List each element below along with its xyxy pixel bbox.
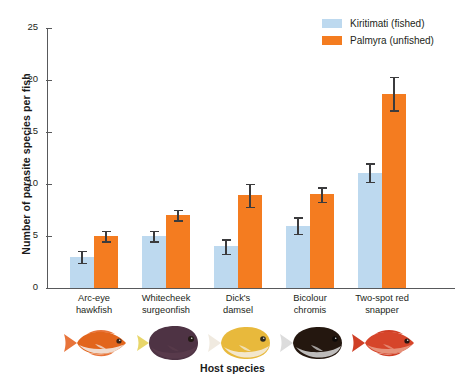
whitecheek-surgeonfish-illustration [131,322,201,364]
error-bar [153,231,154,241]
dicks-damsel-illustration [203,322,273,364]
error-bar [177,210,178,220]
y-tick-mark [46,236,52,237]
y-axis-line [47,28,48,288]
y-tick-label: 10 [27,177,38,188]
category-label-line: snapper [339,305,425,317]
two-spot-red-snapper-illustration [347,322,417,364]
error-bar-cap-upper [246,184,255,185]
bar-kiritimati [358,173,382,288]
error-bar-cap-upper [294,217,303,218]
bar-palmyra [94,236,118,288]
plot-area: 0510152025 [47,28,455,288]
error-bar-cap-upper [222,239,231,240]
y-tick-mark [46,184,52,185]
y-tick-mark [46,288,52,289]
error-bar-cap-upper [390,77,399,78]
error-bar-cap-upper [366,163,375,164]
error-bar [105,231,106,241]
category-label-line: Two-spot red [339,293,425,305]
error-bar-cap-lower [222,254,231,255]
legend-swatch-kiritimati [322,19,342,28]
x-axis-title: Host species [0,362,465,374]
error-bar-cap-upper [150,231,159,232]
error-bar-cap-lower [102,241,111,242]
arc-eye-hawkfish-illustration [59,322,129,364]
error-bar [321,187,322,202]
y-tick-mark [46,80,52,81]
y-tick-mark [46,28,52,29]
error-bar-cap-lower [246,207,255,208]
y-tick-label: 25 [27,21,38,32]
error-bar [369,163,370,182]
x-axis-line [47,288,455,289]
error-bar [225,239,226,254]
y-tick-mark [46,132,52,133]
y-tick-label: 15 [27,125,38,136]
bar-palmyra [382,94,406,288]
bar-palmyra [310,194,334,288]
error-bar-cap-upper [102,231,111,232]
bar-palmyra [166,215,190,288]
error-bar-cap-lower [294,234,303,235]
error-bar [249,184,250,207]
category-label-5: Two-spot redsnapper [339,293,425,316]
error-bar-cap-lower [78,263,87,264]
error-bar-cap-lower [366,182,375,183]
error-bar-cap-upper [174,210,183,211]
error-bar-cap-lower [174,220,183,221]
y-tick-label: 0 [33,281,38,292]
bar-kiritimati [142,236,166,288]
error-bar-cap-lower [318,202,327,203]
y-tick-label: 5 [33,229,38,240]
error-bar [81,251,82,263]
error-bar [297,217,298,234]
error-bar-cap-upper [318,187,327,188]
error-bar [393,77,394,110]
bicolour-chromis-illustration [275,322,345,364]
error-bar-cap-lower [390,110,399,111]
bar-palmyra [238,195,262,288]
error-bar-cap-upper [78,251,87,252]
parasite-species-bar-chart: Number of parasite species per fish Kiri… [0,0,465,379]
y-tick-label: 20 [27,73,38,84]
error-bar-cap-lower [150,241,159,242]
